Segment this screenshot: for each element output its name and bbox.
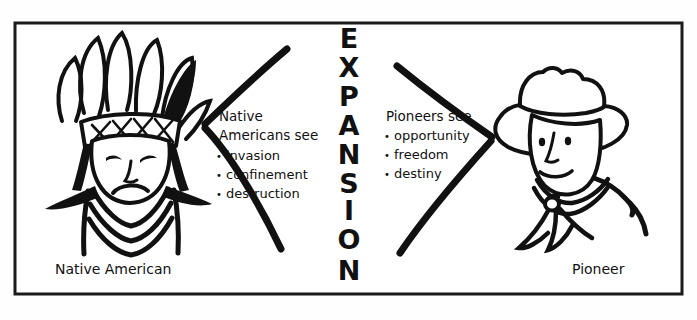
right-bullet-item-0: • opportunity	[384, 128, 470, 143]
right-bullet-item-1: • freedom	[384, 147, 449, 162]
expansion-letter-1: X	[339, 52, 360, 83]
left-heading-line2: Americans see	[219, 127, 318, 143]
bullet-glyph: •	[216, 151, 222, 162]
bullet-glyph: •	[384, 131, 390, 142]
right-heading-line1: Pioneers see	[386, 108, 472, 124]
right-bullet-label-0: opportunity	[394, 128, 470, 143]
bullet-glyph: •	[216, 170, 222, 181]
bullet-glyph: •	[216, 189, 222, 200]
left-bullet-item-0: • invasion	[216, 148, 280, 163]
expansion-letter-0: E	[340, 23, 358, 54]
right-bullet-label-2: destiny	[394, 166, 442, 181]
left-bullet-item-1: • confinement	[216, 167, 308, 182]
left-caption: Native American	[55, 261, 171, 277]
expansion-letter-2: P	[339, 81, 359, 112]
left-bullet-item-2: • destruction	[216, 186, 300, 201]
expansion-title: E X P A N S I O N	[338, 23, 361, 286]
neckerchief-knot	[545, 198, 559, 211]
right-caption: Pioneer	[572, 261, 625, 277]
left-bullet-label-2: destruction	[226, 186, 300, 201]
expansion-letter-3: A	[339, 110, 360, 141]
expansion-letter-6: I	[344, 195, 354, 226]
diagram-canvas: E X P A N S I O N Native Americans see •…	[0, 0, 697, 320]
left-heading-line1: Native	[219, 108, 263, 124]
left-bullet-label-1: confinement	[226, 167, 308, 182]
expansion-letter-7: O	[338, 224, 361, 255]
bullet-glyph: •	[384, 169, 390, 180]
bullet-glyph: •	[384, 150, 390, 161]
expansion-letter-8: N	[338, 255, 361, 286]
right-bullet-label-1: freedom	[394, 147, 449, 162]
left-bullet-label-0: invasion	[226, 148, 280, 163]
expansion-letter-4: N	[338, 139, 361, 170]
